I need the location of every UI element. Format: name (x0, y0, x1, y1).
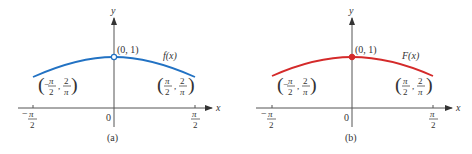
svg-text:,: , (412, 81, 414, 91)
point-label-top: (0, 1) (355, 44, 377, 56)
svg-text:π: π (192, 109, 197, 119)
svg-text:−: − (22, 108, 28, 119)
svg-text:(: ( (157, 75, 164, 96)
origin-label: 0 (106, 112, 111, 123)
svg-text:π: π (403, 76, 408, 86)
function-label: f(x) (163, 50, 178, 62)
filled-point-marker (349, 54, 355, 60)
svg-text:,: , (174, 81, 176, 91)
svg-text:2: 2 (418, 76, 423, 86)
y-axis-label: y (348, 5, 354, 16)
svg-text:(: ( (395, 75, 402, 96)
svg-text:,: , (58, 81, 60, 91)
svg-text:2: 2 (49, 87, 54, 97)
svg-text:π: π (303, 87, 308, 97)
svg-text:,: , (297, 81, 299, 91)
x-axis-label: x (455, 102, 461, 113)
origin-label: 0 (344, 112, 349, 123)
svg-text:π: π (180, 87, 185, 97)
x-axis-label: x (215, 102, 221, 113)
point-label-right: ( π 2 , 2 π ) (395, 75, 433, 97)
open-point-marker (111, 54, 116, 59)
panel-a: y x (0, 1) f(x) 0 (a) − π 2 π 2 ( − π 2 … (18, 5, 221, 144)
tick-label-pi-half: π 2 (429, 109, 438, 130)
tick-label-neg-pi-half: − π 2 (261, 108, 276, 130)
y-axis-label: y (110, 5, 116, 16)
function-label: F(x) (401, 50, 420, 62)
svg-text:π: π (29, 109, 34, 119)
svg-text:2: 2 (193, 120, 198, 130)
svg-text:2: 2 (180, 76, 185, 86)
point-label-left: ( − π 2 , 2 π ) (277, 75, 317, 97)
svg-text:): ) (71, 75, 78, 96)
point-label-left: ( − π 2 , 2 π ) (38, 75, 78, 97)
point-label-right: ( π 2 , 2 π ) (157, 75, 195, 97)
svg-text:): ) (310, 75, 317, 96)
svg-text:2: 2 (30, 120, 35, 130)
tick-label-pi-half: π 2 (191, 109, 200, 130)
point-label-top: (0, 1) (117, 44, 139, 56)
svg-text:π: π (165, 76, 170, 86)
svg-text:π: π (288, 76, 293, 86)
panel-label: (a) (107, 132, 118, 144)
svg-text:−: − (261, 108, 267, 119)
figure: y x (0, 1) f(x) 0 (a) − π 2 π 2 ( − π 2 … (0, 0, 472, 154)
svg-text:π: π (430, 109, 435, 119)
svg-text:2: 2 (303, 76, 308, 86)
svg-text:π: π (418, 87, 423, 97)
svg-text:2: 2 (431, 120, 436, 130)
svg-text:π: π (64, 87, 69, 97)
tick-label-neg-pi-half: − π 2 (22, 108, 37, 130)
svg-text:2: 2 (288, 87, 293, 97)
svg-text:2: 2 (269, 120, 274, 130)
svg-text:2: 2 (165, 87, 170, 97)
svg-text:2: 2 (64, 76, 69, 86)
svg-text:π: π (268, 109, 273, 119)
panel-label: (b) (345, 132, 357, 144)
panel-b: y x (0, 1) F(x) 0 (b) − π 2 π 2 ( − π 2 … (256, 5, 461, 144)
svg-text:): ) (188, 75, 195, 96)
svg-text:): ) (426, 75, 433, 96)
svg-text:2: 2 (403, 87, 408, 97)
svg-text:π: π (49, 76, 54, 86)
